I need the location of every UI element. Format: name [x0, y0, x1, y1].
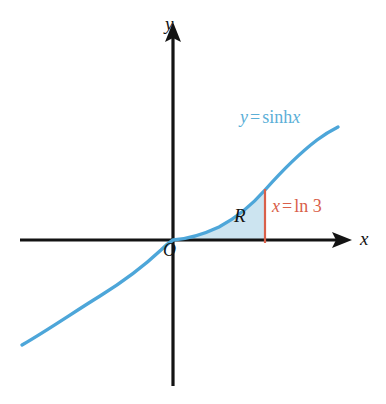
- vline-equation-rhs: ln 3: [294, 196, 322, 216]
- curve-equation-operator: =: [248, 107, 262, 127]
- math-figure: y x O R y=sinhx x=ln 3: [0, 0, 386, 404]
- curve-equation-lhs: y: [240, 107, 248, 127]
- shaded-region-R: [173, 190, 265, 240]
- vline-equation-operator: =: [280, 196, 294, 216]
- region-label: R: [234, 206, 246, 225]
- origin-label: O: [163, 241, 176, 259]
- vertical-line-equation-label: x=ln 3: [272, 197, 322, 215]
- curve-equation-argument: x: [292, 107, 300, 127]
- sinh-curve: [22, 127, 338, 345]
- curve-equation-label: y=sinhx: [240, 108, 300, 126]
- graph-canvas: [0, 0, 386, 404]
- x-axis-label: x: [360, 229, 368, 248]
- y-axis-label: y: [165, 14, 173, 33]
- vline-equation-lhs: x: [272, 196, 280, 216]
- curve-equation-function: sinh: [262, 107, 292, 127]
